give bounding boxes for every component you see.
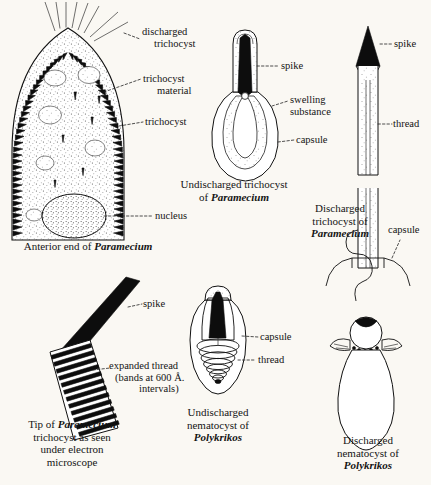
caption-em-tip: Tip of Paramecium trichocyst as seen und…: [2, 418, 142, 468]
label-trichocyst-material: trichocyst material: [143, 73, 191, 96]
leader-capsule-2: [278, 140, 294, 142]
label-discharged-trichocyst: discharged trichocyst: [142, 26, 195, 49]
spike-shape-3: [356, 26, 380, 66]
leader-spike-4: [128, 304, 142, 307]
panel-undischarged-trichocyst-art: [212, 30, 294, 181]
leader-capsule-3: [392, 240, 400, 258]
caption-discharged-nematocyst: Discharged nematocyst of Polykrikos: [310, 434, 426, 472]
thread-shaft-upper: [358, 66, 378, 175]
label-spike-4: spike: [143, 298, 165, 310]
label-capsule-3: capsule: [388, 224, 420, 236]
spike-shape: [238, 34, 252, 92]
label-thread-3: thread: [393, 118, 419, 130]
label-capsule-2: capsule: [296, 134, 328, 146]
leader-swelling-substance: [272, 101, 288, 106]
panel-anterior-end-art: [12, 2, 153, 240]
panel-em-tip-art: [50, 277, 142, 440]
caption-anterior-end: Anterior end of Paramecium: [8, 240, 168, 253]
label-thread-5: thread: [258, 354, 284, 366]
caption-discharged-trichocyst: Discharged trichocyst of Paramecium: [288, 202, 392, 240]
label-nucleus: nucleus: [155, 210, 187, 222]
label-spike-2: spike: [281, 60, 303, 72]
label-trichocyst: trichocyst: [145, 116, 186, 128]
caption-undischarged-trichocyst: Undischarged trichocyst of Paramecium: [168, 178, 300, 203]
basal-granule: [242, 93, 249, 100]
panel-discharged-trichocyst-art: [326, 26, 410, 286]
label-spike-3: spike: [394, 38, 416, 50]
label-swelling-substance: swelling substance: [290, 94, 331, 117]
figure-plate: discharged trichocyst trichocyst materia…: [0, 0, 431, 485]
label-capsule-5: capsule: [260, 331, 292, 343]
caption-undischarged-nematocyst: Undischarged nematocyst of Polykrikos: [162, 406, 274, 444]
leader-discharged-trichocyst: [124, 33, 140, 39]
label-expanded-thread: expanded thread (bands at 600 Å. interva…: [109, 360, 213, 395]
nucleus-shape: [42, 194, 106, 238]
